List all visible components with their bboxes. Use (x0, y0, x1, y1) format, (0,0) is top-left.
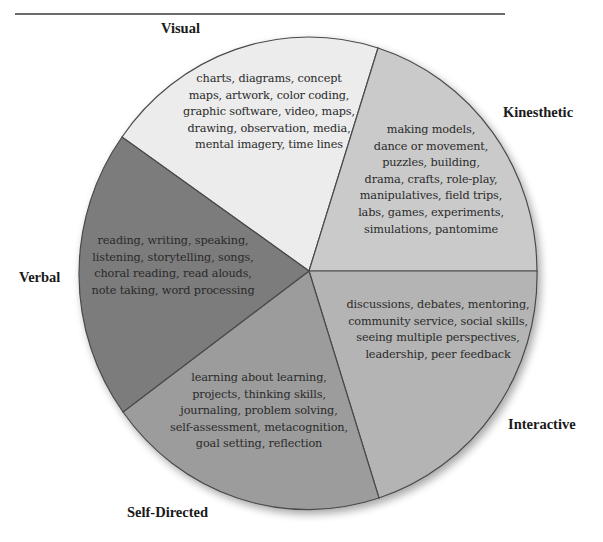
label-visual: Visual (161, 20, 200, 37)
text-self-directed: learning about learning, projects, think… (154, 370, 364, 453)
text-verbal: reading, writing, speaking, listening, s… (82, 233, 264, 299)
label-interactive: Interactive (508, 416, 576, 433)
label-verbal: Verbal (19, 269, 60, 286)
label-kinesthetic: Kinesthetic (503, 104, 573, 121)
text-interactive: discussions, debates, mentoring, communi… (322, 297, 554, 363)
text-kinesthetic: making models, dance or movement, puzzle… (331, 122, 531, 238)
label-self-directed: Self-Directed (127, 504, 208, 521)
